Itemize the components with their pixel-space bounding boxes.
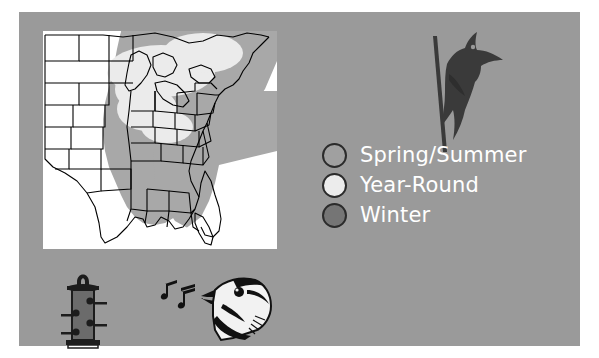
singing-bird-head-icon bbox=[159, 268, 277, 352]
figure-canvas: Spring/Summer Year-Round Winter bbox=[0, 0, 599, 358]
range-map-card bbox=[43, 31, 277, 249]
legend-item-year-round[interactable]: Year-Round bbox=[322, 170, 572, 200]
gray-panel: Spring/Summer Year-Round Winter bbox=[19, 12, 580, 346]
pileated-woodpecker-silhouette-icon bbox=[407, 30, 517, 158]
legend-item-spring-summer[interactable]: Spring/Summer bbox=[322, 140, 572, 170]
legend-swatch-winter bbox=[322, 203, 347, 228]
legend-item-winter[interactable]: Winter bbox=[322, 200, 572, 230]
tube-bird-feeder-icon bbox=[55, 266, 113, 352]
bird-head bbox=[201, 278, 271, 340]
legend-swatch-spring-summer bbox=[322, 143, 347, 168]
legend-label-year-round: Year-Round bbox=[360, 175, 479, 196]
season-legend: Spring/Summer Year-Round Winter bbox=[322, 140, 572, 230]
legend-label-winter: Winter bbox=[360, 205, 430, 226]
legend-label-spring-summer: Spring/Summer bbox=[360, 145, 527, 166]
music-note-icon bbox=[161, 280, 195, 308]
legend-swatch-year-round bbox=[322, 173, 347, 198]
range-map-svg bbox=[43, 31, 277, 249]
